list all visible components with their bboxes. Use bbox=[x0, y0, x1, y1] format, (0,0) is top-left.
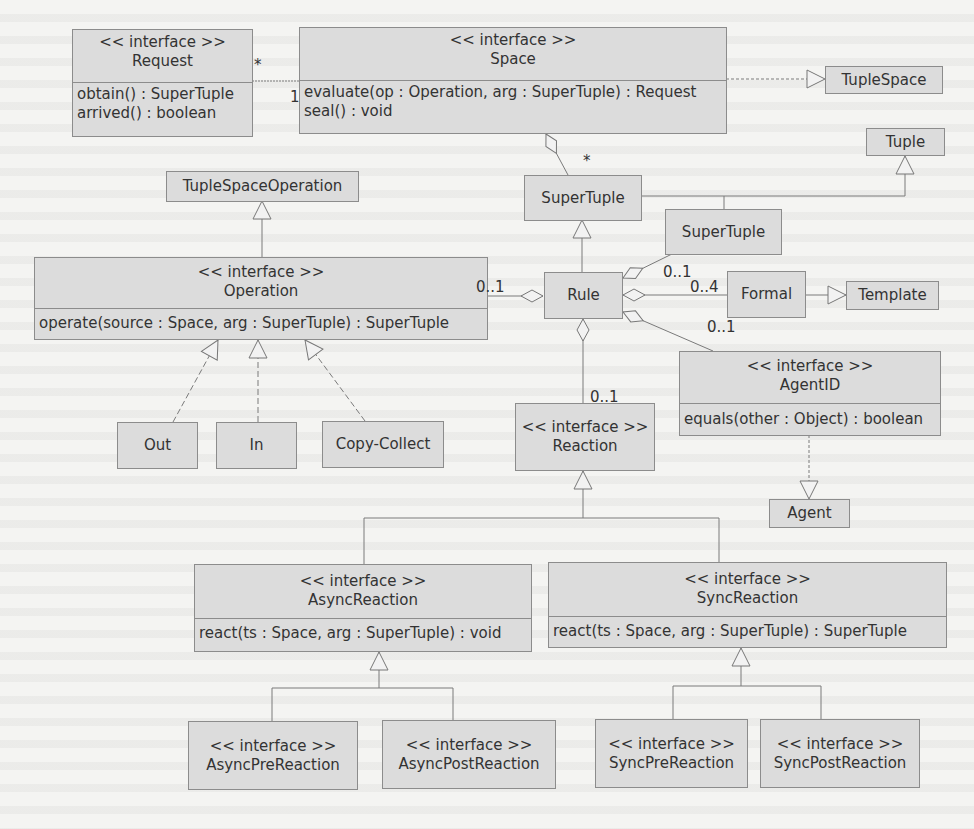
class-out[interactable]: Out bbox=[117, 422, 198, 469]
multiplicity-operation-rule: 0..1 bbox=[476, 278, 505, 296]
class-request[interactable]: << interface >> Request obtain() : Super… bbox=[72, 29, 253, 137]
method: obtain() : SuperTuple bbox=[77, 85, 248, 104]
class-name: Space bbox=[300, 50, 726, 69]
method: operate(source : Space, arg : SuperTuple… bbox=[39, 314, 483, 333]
method: react(ts : Space, arg : SuperTuple) : vo… bbox=[199, 624, 527, 643]
stereotype-label: << interface >> bbox=[680, 357, 940, 376]
class-asyncprereaction[interactable]: << interface >> AsyncPreReaction bbox=[188, 721, 358, 790]
copycollect-operation-realization bbox=[305, 340, 365, 421]
class-copy-collect[interactable]: Copy-Collect bbox=[322, 421, 444, 468]
method: evaluate(op : Operation, arg : SuperTupl… bbox=[304, 83, 722, 102]
class-name: Template bbox=[858, 286, 926, 305]
class-agent[interactable]: Agent bbox=[769, 499, 850, 528]
class-name: Reaction bbox=[552, 437, 617, 456]
class-name: Agent bbox=[787, 504, 831, 523]
reaction-subclass-connector bbox=[364, 518, 719, 564]
class-tuplespace[interactable]: TupleSpace bbox=[825, 66, 943, 94]
sync-subclass-connector bbox=[673, 686, 821, 719]
class-supertuple-2[interactable]: SuperTuple bbox=[665, 209, 782, 255]
class-rule[interactable]: Rule bbox=[544, 272, 623, 319]
rule-agentid-aggregation bbox=[623, 312, 713, 351]
class-supertuple[interactable]: SuperTuple bbox=[524, 175, 642, 221]
class-name: SyncReaction bbox=[549, 589, 946, 608]
multiplicity-rule-supertuple: 0..1 bbox=[663, 263, 692, 281]
multiplicity-rule-agentid: 0..1 bbox=[707, 318, 736, 336]
class-formal[interactable]: Formal bbox=[727, 271, 806, 318]
class-asyncreaction[interactable]: << interface >> AsyncReaction react(ts :… bbox=[194, 564, 532, 652]
stereotype-label: << interface >> bbox=[608, 735, 735, 754]
method: seal() : void bbox=[304, 102, 722, 121]
class-in[interactable]: In bbox=[216, 422, 297, 469]
stereotype-label: << interface >> bbox=[777, 735, 904, 754]
class-name: AsyncPreReaction bbox=[206, 756, 340, 775]
class-name: AsyncReaction bbox=[195, 591, 531, 610]
class-space[interactable]: << interface >> Space evaluate(op : Oper… bbox=[299, 27, 727, 134]
class-agentid[interactable]: << interface >> AgentID equals(other : O… bbox=[679, 351, 941, 436]
stereotype-label: << interface >> bbox=[522, 418, 649, 437]
async-subclass-connector bbox=[272, 688, 453, 721]
stereotype-label: << interface >> bbox=[406, 736, 533, 755]
out-operation-realization bbox=[173, 340, 218, 422]
class-tuplespaceoperation[interactable]: TupleSpaceOperation bbox=[166, 171, 359, 202]
stereotype-label: << interface >> bbox=[549, 570, 946, 589]
class-asyncpostreaction[interactable]: << interface >> AsyncPostReaction bbox=[382, 720, 556, 789]
stereotype-label: << interface >> bbox=[210, 737, 337, 756]
class-name: SyncPreReaction bbox=[609, 754, 734, 773]
supertuple-tuple-realization bbox=[641, 156, 905, 196]
class-name: SuperTuple bbox=[541, 189, 624, 208]
space-supertuple-aggregation bbox=[546, 134, 568, 175]
class-reaction[interactable]: << interface >> Reaction bbox=[515, 403, 655, 471]
multiplicity-rule-formal: 0..4 bbox=[690, 278, 719, 296]
stereotype-label: << interface >> bbox=[300, 31, 726, 50]
class-name: TupleSpaceOperation bbox=[183, 177, 343, 196]
class-name: Formal bbox=[741, 285, 792, 304]
class-name: SyncPostReaction bbox=[774, 754, 907, 773]
multiplicity-rule-reaction: 0..1 bbox=[590, 388, 619, 406]
stereotype-label: << interface >> bbox=[73, 33, 252, 52]
stereotype-label: << interface >> bbox=[195, 572, 531, 591]
class-name: In bbox=[250, 436, 264, 455]
class-tuple[interactable]: Tuple bbox=[866, 128, 945, 156]
class-template[interactable]: Template bbox=[846, 281, 939, 310]
method: arrived() : boolean bbox=[77, 104, 248, 123]
class-name: AsyncPostReaction bbox=[398, 755, 539, 774]
method: equals(other : Object) : boolean bbox=[684, 410, 936, 429]
class-name: Operation bbox=[35, 282, 487, 301]
multiplicity-space-one: 1 bbox=[290, 88, 300, 106]
class-name: TupleSpace bbox=[841, 71, 926, 90]
class-name: Request bbox=[73, 52, 252, 71]
method: react(ts : Space, arg : SuperTuple) : Su… bbox=[553, 622, 942, 641]
multiplicity-request-many: * bbox=[254, 56, 262, 74]
class-name: Tuple bbox=[886, 133, 925, 152]
class-name: AgentID bbox=[680, 376, 940, 395]
class-syncreaction[interactable]: << interface >> SyncReaction react(ts : … bbox=[548, 562, 947, 648]
class-syncprereaction[interactable]: << interface >> SyncPreReaction bbox=[595, 719, 748, 788]
class-name: Out bbox=[144, 436, 171, 455]
multiplicity-space-supertuple: * bbox=[583, 152, 591, 170]
class-name: Copy-Collect bbox=[336, 435, 431, 454]
class-syncpostreaction[interactable]: << interface >> SyncPostReaction bbox=[760, 719, 920, 788]
class-name: Rule bbox=[567, 286, 600, 305]
class-name: SuperTuple bbox=[682, 223, 765, 242]
class-operation[interactable]: << interface >> Operation operate(source… bbox=[34, 257, 488, 340]
stereotype-label: << interface >> bbox=[35, 263, 487, 282]
